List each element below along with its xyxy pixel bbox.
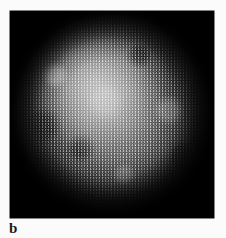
blob-texture-region (10, 11, 214, 218)
panel-label: b (9, 221, 17, 236)
figure-panel: b (0, 0, 226, 238)
blob-speckle-noise (10, 11, 214, 218)
grayscale-image-panel (10, 11, 214, 218)
